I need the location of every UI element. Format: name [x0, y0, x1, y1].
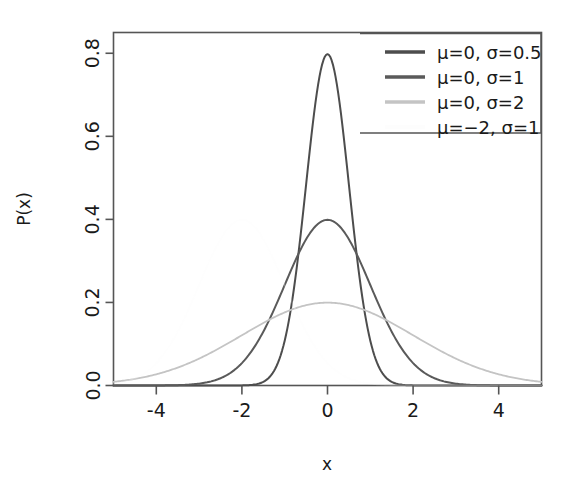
x-tick-label-4: 4: [493, 399, 505, 421]
x-tick-label-1: -2: [232, 399, 251, 421]
legend-label-2: μ=0, σ=2: [437, 92, 524, 113]
y-tick-label-1: 0.2: [82, 287, 104, 317]
legend-label-0: μ=0, σ=0.5: [437, 42, 542, 63]
y-axis-title: P(x): [14, 192, 34, 226]
x-tick-label-2: 0: [321, 399, 333, 421]
x-axis: -4-2024: [147, 386, 505, 421]
x-axis-title: x: [322, 454, 332, 474]
y-tick-label-3: 0.6: [82, 121, 104, 151]
normal-distribution-chart: 0.00.20.40.60.8 -4-2024 x P(x) μ=0, σ=0.…: [0, 0, 569, 498]
legend-label-3: μ=−2, σ=1: [437, 117, 539, 138]
y-tick-label-0: 0.0: [82, 370, 104, 400]
x-tick-label-0: -4: [147, 399, 166, 421]
y-tick-label-2: 0.4: [82, 204, 104, 234]
legend-label-1: μ=0, σ=1: [437, 67, 524, 88]
x-tick-label-3: 2: [407, 399, 419, 421]
chart-canvas: 0.00.20.40.60.8 -4-2024 x P(x) μ=0, σ=0.…: [0, 0, 569, 498]
legend-items: μ=0, σ=0.5μ=0, σ=1μ=0, σ=2μ=−2, σ=1: [385, 42, 542, 138]
y-axis: 0.00.20.40.60.8: [82, 38, 114, 400]
legend: μ=0, σ=0.5μ=0, σ=1μ=0, σ=2μ=−2, σ=1: [360, 34, 542, 138]
y-tick-label-4: 0.8: [82, 38, 104, 68]
curve-series-2: [114, 303, 542, 382]
